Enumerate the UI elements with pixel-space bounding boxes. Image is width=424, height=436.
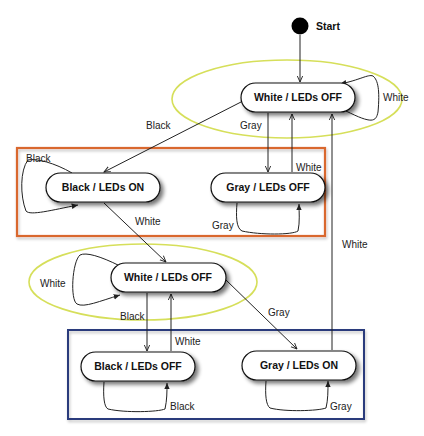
state-s3-label: Gray / LEDs OFF [226, 181, 310, 193]
state-diagram: Start White Black Gray White Black Gray … [0, 0, 424, 436]
edge-label-s1-self: White [383, 92, 409, 103]
edge-label-s5-to-s4: White [175, 336, 201, 347]
edge-label-s1-to-s3: Gray [240, 120, 262, 131]
edge-s6-self [266, 381, 328, 411]
edge-s3-self [237, 203, 300, 234]
edge-label-s3-self: Gray [212, 220, 234, 231]
edge-label-s5-self: Black [170, 401, 195, 412]
state-s5-label: Black / LEDs OFF [94, 360, 182, 372]
edge-label-s4-to-s6: Gray [268, 307, 290, 318]
edge-label-s3-to-s1: White [296, 162, 322, 173]
state-s6-label: Gray / LEDs ON [260, 359, 338, 371]
start-node [292, 18, 309, 35]
edge-label-s4-self: White [40, 278, 66, 289]
edge-label-s4-to-s5: Black [120, 311, 145, 322]
state-s1: White / LEDs OFF [241, 83, 355, 112]
state-s2-label: Black / LEDs ON [62, 181, 144, 193]
start-label: Start [316, 20, 340, 32]
edge-label-s1-to-s2: Black [146, 120, 171, 131]
state-s2: Black / LEDs ON [46, 173, 160, 202]
state-s5: Black / LEDs OFF [81, 352, 195, 381]
state-s4-label: White / LEDs OFF [124, 271, 213, 283]
state-s3: Gray / LEDs OFF [211, 173, 325, 202]
state-s1-label: White / LEDs OFF [254, 91, 343, 103]
edge-label-s6-to-s1: White [342, 239, 368, 250]
state-s4: White / LEDs OFF [111, 263, 226, 292]
edge-s5-self [104, 382, 167, 412]
edge-label-s2-self: Black [26, 153, 51, 164]
edge-s1-to-s2 [104, 102, 241, 172]
edge-s2-to-s4 [104, 203, 166, 262]
state-s6: Gray / LEDs ON [242, 351, 356, 380]
edge-label-s6-self: Gray [330, 401, 352, 412]
edge-label-s2-to-s4: White [135, 216, 161, 227]
